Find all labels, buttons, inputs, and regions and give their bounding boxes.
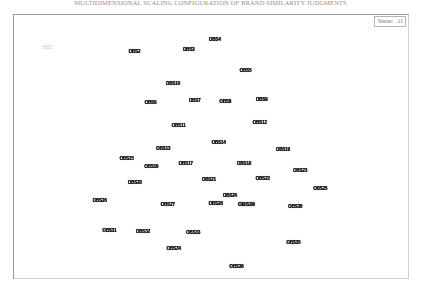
scatter-point: OBS11 xyxy=(172,122,186,127)
scatter-point-label: OBS20 xyxy=(128,179,142,184)
stress-annotation: Stress:.11 xyxy=(374,16,406,27)
scatter-point: OBS15 xyxy=(119,155,133,160)
scatter-point: OBS36 xyxy=(229,263,243,268)
scatter-point: OBS23 xyxy=(293,167,307,172)
scatter-point-label: OBS15 xyxy=(119,155,133,160)
scatter-point-label: OBS3 xyxy=(183,47,195,52)
scatter-point-label: OBS16 xyxy=(144,163,158,168)
scatter-point-label: OBS28 xyxy=(208,201,222,206)
scatter-point: OBS22 xyxy=(256,176,270,181)
scatter-point: OBS12 xyxy=(253,120,267,125)
scatter-point: OBS27 xyxy=(161,202,175,207)
scatter-point: OBS2 xyxy=(128,48,140,53)
scatter-point-label: OBS18 xyxy=(237,160,251,165)
scatter-point: OBS32 xyxy=(136,228,150,233)
scatter-point: OBS6 xyxy=(145,99,157,104)
scatter-point-label: OBS1 xyxy=(41,45,52,50)
scatter-point: OBS25 xyxy=(313,186,327,191)
scatter-point: OBS34 xyxy=(167,245,181,250)
scatter-point-label: OBS24 xyxy=(223,193,237,198)
scatter-point-label: OBS10 xyxy=(166,81,180,86)
scatter-point: OBS4 xyxy=(209,37,221,42)
scatter-point: OBS29 xyxy=(238,201,255,207)
scatter-point-label: OBS26 xyxy=(92,198,106,203)
scatter-point: OBS33 xyxy=(186,229,200,234)
scatter-point: OBS17 xyxy=(179,161,193,166)
scatter-point: OBS7 xyxy=(189,97,201,102)
scatter-point-label: OBS8 xyxy=(219,98,231,103)
scatter-point-label: OBS11 xyxy=(172,122,186,127)
scatter-point-label: OBS4 xyxy=(209,37,221,42)
scatter-point: OBS35 xyxy=(286,239,300,244)
scatter-point-label: OBS35 xyxy=(286,239,300,244)
scatter-point-label: OBS6 xyxy=(145,99,157,104)
scatter-point-label: OBS21 xyxy=(202,177,216,182)
scatter-point: OBS1 xyxy=(41,45,52,50)
scatter-plot-area: OBS1OBS2OBS3OBS4OBS5OBS6OBS7OBS8OBS9OBS1… xyxy=(14,15,408,278)
scatter-point-label: OBS22 xyxy=(256,176,270,181)
scatter-point-label: OBS9 xyxy=(256,96,268,101)
scatter-point-label: OBS27 xyxy=(161,202,175,207)
scatter-point: OBS31 xyxy=(102,227,116,232)
scatter-point-label: OBS7 xyxy=(189,97,201,102)
scatter-point-label: OBS36 xyxy=(229,263,243,268)
scatter-point: OBS3 xyxy=(183,47,195,52)
scatter-point: OBS26 xyxy=(92,198,106,203)
scatter-point-label: OBS30 xyxy=(288,204,302,209)
scatter-point-label: OBS23 xyxy=(293,167,307,172)
scatter-point: OBS24 xyxy=(223,193,237,198)
scatter-point: OBS14 xyxy=(211,140,225,145)
scatter-point-label: OBS34 xyxy=(167,245,181,250)
scatter-point: OBS10 xyxy=(166,81,180,86)
scatter-point: OBS9 xyxy=(256,96,268,101)
scatter-point-label: OBS32 xyxy=(136,228,150,233)
scatter-point: OBS20 xyxy=(128,179,142,184)
scatter-point-label: OBS5 xyxy=(240,67,252,72)
scatter-point-label: OBS25 xyxy=(313,186,327,191)
scatter-point-label: OBS14 xyxy=(211,140,225,145)
scatter-point-label: OBS2 xyxy=(128,48,140,53)
scatter-point-label: OBS12 xyxy=(253,120,267,125)
plot-frame: OBS1OBS2OBS3OBS4OBS5OBS6OBS7OBS8OBS9OBS1… xyxy=(13,14,409,279)
stress-value: .11 xyxy=(396,18,403,24)
page-title: MULTIDIMENSIONAL SCALING CONFIGURATION O… xyxy=(0,0,421,7)
scatter-point-label: OBS19 xyxy=(276,147,290,152)
scatter-point-label: OBS29 xyxy=(238,201,255,207)
scatter-point: OBS19 xyxy=(276,147,290,152)
scatter-point: OBS21 xyxy=(202,177,216,182)
scatter-point: OBS5 xyxy=(240,67,252,72)
scatter-point-label: OBS31 xyxy=(102,227,116,232)
scatter-point: OBS28 xyxy=(208,201,222,206)
stress-label: Stress: xyxy=(378,18,393,24)
scatter-point: OBS8 xyxy=(219,98,231,103)
scatter-point: OBS18 xyxy=(237,160,251,165)
scatter-point-label: OBS13 xyxy=(156,145,170,150)
scatter-point-label: OBS17 xyxy=(179,161,193,166)
scatter-point: OBS16 xyxy=(144,163,158,168)
scatter-point-label: OBS33 xyxy=(186,229,200,234)
scatter-point: OBS13 xyxy=(156,145,170,150)
scatter-point: OBS30 xyxy=(288,204,302,209)
